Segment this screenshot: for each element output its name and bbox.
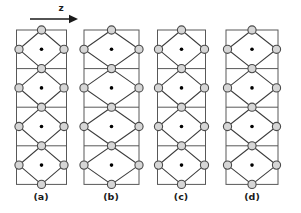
atom-vertex	[107, 142, 115, 150]
atom-left	[15, 122, 23, 130]
atom-right	[272, 161, 280, 169]
atom-right	[135, 45, 143, 53]
atom-left	[80, 122, 88, 130]
interstitial-dot	[40, 125, 44, 129]
atom-right	[60, 84, 68, 92]
panel-a: (a)	[15, 26, 68, 202]
atom-right	[200, 122, 208, 130]
atom-right	[60, 45, 68, 53]
figure-canvas: z(a)(b)(c)(d)	[0, 0, 301, 213]
panel-d: (d)	[223, 26, 280, 202]
atom-left	[154, 45, 162, 53]
atom-vertex	[248, 180, 256, 188]
interstitial-dot	[40, 163, 44, 167]
interstitial-dot	[250, 86, 254, 90]
panel-a-label: (a)	[33, 191, 48, 202]
atom-right	[200, 161, 208, 169]
atom-left	[15, 161, 23, 169]
atom-left	[80, 45, 88, 53]
interstitial-dot	[180, 86, 184, 90]
atom-right	[272, 122, 280, 130]
panel-d-label: (d)	[244, 191, 259, 202]
interstitial-dot	[180, 125, 184, 129]
interstitial-dot	[40, 86, 44, 90]
atom-vertex	[107, 65, 115, 73]
atom-left	[154, 84, 162, 92]
interstitial-dot	[180, 48, 184, 52]
atom-vertex	[107, 180, 115, 188]
atom-vertex	[177, 103, 185, 111]
atom-right	[135, 122, 143, 130]
atom-vertex	[177, 65, 185, 73]
atom-left	[223, 45, 231, 53]
atom-right	[272, 84, 280, 92]
atom-vertex	[37, 26, 45, 34]
panel-c: (c)	[154, 26, 208, 202]
atom-vertex	[248, 103, 256, 111]
atom-left	[15, 45, 23, 53]
atom-vertex	[248, 65, 256, 73]
atom-vertex	[248, 26, 256, 34]
atom-vertex	[37, 65, 45, 73]
atom-left	[223, 84, 231, 92]
atom-left	[15, 84, 23, 92]
z-axis-group: z	[30, 3, 78, 23]
atom-right	[60, 161, 68, 169]
atom-right	[60, 122, 68, 130]
interstitial-dot	[180, 163, 184, 167]
atom-vertex	[248, 142, 256, 150]
panel-c-label: (c)	[174, 191, 188, 202]
panel-b: (b)	[80, 26, 143, 202]
atom-vertex	[107, 26, 115, 34]
atom-vertex	[37, 180, 45, 188]
atom-right	[200, 45, 208, 53]
atom-left	[154, 122, 162, 130]
interstitial-dot	[110, 163, 114, 167]
interstitial-dot	[110, 125, 114, 129]
interstitial-dot	[250, 125, 254, 129]
atom-left	[80, 161, 88, 169]
atom-right	[200, 84, 208, 92]
interstitial-dot	[40, 48, 44, 52]
interstitial-dot	[250, 48, 254, 52]
atom-vertex	[107, 103, 115, 111]
crystal-structure-figure: z(a)(b)(c)(d)	[0, 0, 301, 213]
atom-left	[154, 161, 162, 169]
atom-vertex	[177, 26, 185, 34]
atom-left	[80, 84, 88, 92]
atom-vertex	[37, 103, 45, 111]
atom-vertex	[177, 142, 185, 150]
interstitial-dot	[110, 86, 114, 90]
interstitial-dot	[110, 48, 114, 52]
atom-right	[135, 84, 143, 92]
atom-right	[135, 161, 143, 169]
atom-right	[272, 45, 280, 53]
z-axis-label: z	[58, 3, 63, 13]
panel-b-label: (b)	[103, 191, 118, 202]
z-axis-arrowhead	[69, 15, 78, 23]
atom-vertex	[177, 180, 185, 188]
atom-left	[223, 161, 231, 169]
atom-vertex	[37, 142, 45, 150]
interstitial-dot	[250, 163, 254, 167]
atom-left	[223, 122, 231, 130]
